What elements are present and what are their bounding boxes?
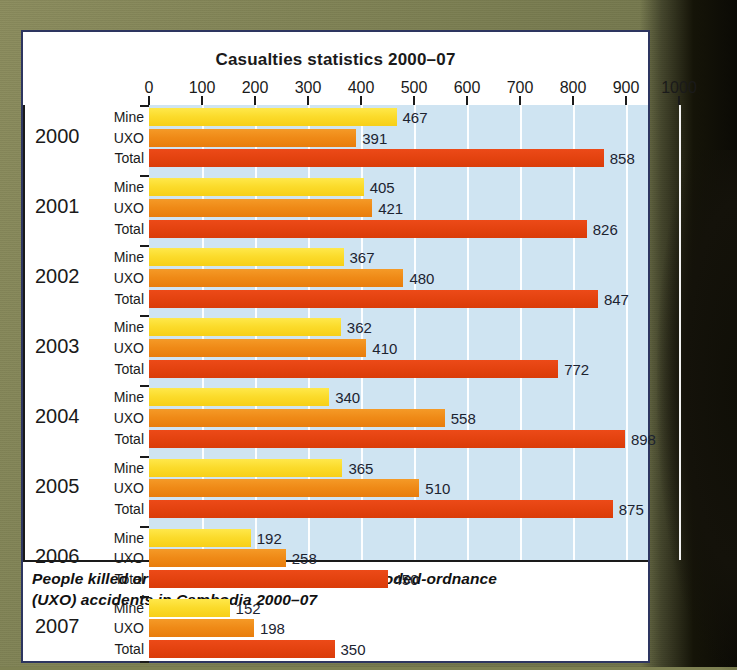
row-label-2003-uxo: UXO bbox=[114, 339, 144, 357]
bar-2001-total[interactable] bbox=[149, 220, 587, 238]
bar-value-2001-uxo: 421 bbox=[372, 199, 403, 216]
x-tick-mark-300 bbox=[307, 96, 309, 105]
bar-value-2001-total: 826 bbox=[587, 220, 618, 237]
row-label-2006-uxo: UXO bbox=[114, 549, 144, 567]
group-tick-2002 bbox=[140, 245, 149, 247]
row-label-2003-total: Total bbox=[114, 360, 144, 378]
row-label-2001-mine: Mine bbox=[114, 178, 144, 196]
x-tick-mark-700 bbox=[519, 96, 521, 105]
bar-2004-uxo[interactable] bbox=[149, 409, 445, 427]
group-tick-2005 bbox=[140, 456, 149, 458]
x-tick-label-300: 300 bbox=[295, 79, 322, 97]
bar-2004-total[interactable] bbox=[149, 430, 625, 448]
x-tick-mark-800 bbox=[572, 96, 574, 105]
row-label-2000-uxo: UXO bbox=[114, 129, 144, 147]
x-tick-label-700: 700 bbox=[507, 79, 534, 97]
row-label-2007-mine: Mine bbox=[114, 599, 144, 617]
bar-2000-uxo[interactable] bbox=[149, 129, 356, 147]
bar-2007-mine[interactable] bbox=[149, 599, 230, 617]
bar-value-2004-total: 898 bbox=[625, 430, 656, 447]
x-tick-label-0: 0 bbox=[145, 79, 154, 97]
group-tick-2001 bbox=[140, 175, 149, 177]
bar-value-2007-uxo: 198 bbox=[254, 620, 285, 637]
year-label-2000: 2000 bbox=[35, 125, 80, 148]
row-label-2001-uxo: UXO bbox=[114, 199, 144, 217]
row-label-2002-total: Total bbox=[114, 290, 144, 308]
x-tick-label-200: 200 bbox=[242, 79, 269, 97]
bar-2000-mine[interactable] bbox=[149, 108, 397, 126]
bar-2005-uxo[interactable] bbox=[149, 479, 419, 497]
group-tick-end bbox=[140, 661, 149, 663]
bar-value-2005-total: 875 bbox=[613, 500, 644, 517]
bar-2007-uxo[interactable] bbox=[149, 619, 254, 637]
bar-value-2003-uxo: 410 bbox=[366, 340, 397, 357]
x-tick-mark-0 bbox=[148, 96, 150, 105]
gridline-1000 bbox=[679, 105, 681, 560]
bar-2005-mine[interactable] bbox=[149, 459, 342, 477]
year-label-2007: 2007 bbox=[35, 615, 80, 638]
chart-card: Casualties statistics 2000–07 0100200300… bbox=[21, 30, 650, 663]
group-tick-2006 bbox=[140, 526, 149, 528]
x-tick-label-900: 900 bbox=[613, 79, 640, 97]
bar-2001-mine[interactable] bbox=[149, 178, 364, 196]
row-label-2000-total: Total bbox=[114, 149, 144, 167]
bar-value-2007-total: 350 bbox=[335, 641, 366, 658]
year-label-2004: 2004 bbox=[35, 405, 80, 428]
bar-value-2000-mine: 467 bbox=[397, 109, 428, 126]
year-label-2002: 2002 bbox=[35, 265, 80, 288]
group-tick-2003 bbox=[140, 315, 149, 317]
bar-2002-total[interactable] bbox=[149, 290, 598, 308]
row-label-2007-total: Total bbox=[114, 640, 144, 658]
bar-2005-total[interactable] bbox=[149, 500, 613, 518]
chart-title: Casualties statistics 2000–07 bbox=[23, 50, 648, 70]
x-tick-label-100: 100 bbox=[189, 79, 216, 97]
bar-value-2002-total: 847 bbox=[598, 290, 629, 307]
bar-value-2005-uxo: 510 bbox=[419, 480, 450, 497]
plot-area: 4673918584054218263674808473624107723405… bbox=[23, 105, 648, 562]
bar-value-2001-mine: 405 bbox=[364, 179, 395, 196]
bar-2004-mine[interactable] bbox=[149, 388, 329, 406]
x-tick-mark-100 bbox=[201, 96, 203, 105]
row-label-2004-total: Total bbox=[114, 430, 144, 448]
group-tick-2007 bbox=[140, 596, 149, 598]
bar-value-2002-mine: 367 bbox=[344, 249, 375, 266]
bar-2003-uxo[interactable] bbox=[149, 339, 366, 357]
bar-2002-mine[interactable] bbox=[149, 248, 344, 266]
bar-value-2003-mine: 362 bbox=[341, 319, 372, 336]
row-label-2003-mine: Mine bbox=[114, 318, 144, 336]
row-label-2006-total: Total bbox=[114, 570, 144, 588]
bar-value-2006-mine: 192 bbox=[251, 529, 282, 546]
bar-2007-total[interactable] bbox=[149, 640, 335, 658]
bar-2006-total[interactable] bbox=[149, 570, 388, 588]
bar-value-2004-uxo: 558 bbox=[445, 410, 476, 427]
bar-2006-mine[interactable] bbox=[149, 529, 251, 547]
row-label-2001-total: Total bbox=[114, 220, 144, 238]
x-tick-label-400: 400 bbox=[348, 79, 375, 97]
y-axis-labels: MineUXOTotal2000MineUXOTotal2001MineUXOT… bbox=[23, 105, 149, 560]
row-label-2002-uxo: UXO bbox=[114, 269, 144, 287]
bar-2006-uxo[interactable] bbox=[149, 549, 286, 567]
row-label-2006-mine: Mine bbox=[114, 529, 144, 547]
bar-2003-mine[interactable] bbox=[149, 318, 341, 336]
bar-2001-uxo[interactable] bbox=[149, 199, 372, 217]
bar-2000-total[interactable] bbox=[149, 149, 604, 167]
bar-value-2005-mine: 365 bbox=[342, 459, 373, 476]
bar-value-2000-uxo: 391 bbox=[356, 129, 387, 146]
x-tick-mark-600 bbox=[466, 96, 468, 105]
row-label-2005-mine: Mine bbox=[114, 459, 144, 477]
year-label-2005: 2005 bbox=[35, 475, 80, 498]
x-tick-mark-500 bbox=[413, 96, 415, 105]
bar-2002-uxo[interactable] bbox=[149, 269, 403, 287]
group-tick-2004 bbox=[140, 385, 149, 387]
year-label-2001: 2001 bbox=[35, 195, 80, 218]
row-label-2005-uxo: UXO bbox=[114, 479, 144, 497]
bar-value-2004-mine: 340 bbox=[329, 389, 360, 406]
row-label-2002-mine: Mine bbox=[114, 248, 144, 266]
bar-value-2007-mine: 152 bbox=[230, 599, 261, 616]
row-label-2004-uxo: UXO bbox=[114, 409, 144, 427]
bar-value-2006-uxo: 258 bbox=[286, 550, 317, 567]
x-tick-mark-200 bbox=[254, 96, 256, 105]
bar-2003-total[interactable] bbox=[149, 360, 558, 378]
x-tick-mark-1000 bbox=[678, 96, 680, 105]
row-label-2007-uxo: UXO bbox=[114, 619, 144, 637]
